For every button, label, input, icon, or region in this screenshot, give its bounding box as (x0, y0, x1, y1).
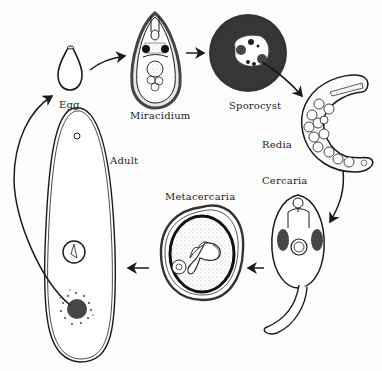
cercaria-figure (264, 195, 324, 334)
sporocyst-figure (209, 14, 287, 92)
sporocyst-label: Sporocyst (229, 100, 281, 111)
life-cycle-diagram: Egg Miracidium Sporocyst Redia Cercaria … (0, 0, 382, 371)
miracidium-label: Miracidium (130, 110, 191, 121)
adult-figure (45, 108, 116, 362)
miracidium-figure (132, 13, 180, 108)
egg-label: Egg (59, 99, 80, 110)
cercaria-label: Cercaria (262, 175, 307, 186)
metacercaria-figure (161, 206, 243, 300)
arrow-redia-to-cercaria (330, 170, 343, 222)
arrow-egg-to-miracidium (90, 56, 125, 70)
diagram-artwork (0, 0, 382, 371)
egg-figure (58, 46, 82, 90)
adult-label: Adult (110, 155, 138, 166)
redia-figure (302, 75, 373, 172)
metacercaria-label: Metacercaria (165, 191, 235, 202)
redia-label: Redia (262, 139, 292, 150)
